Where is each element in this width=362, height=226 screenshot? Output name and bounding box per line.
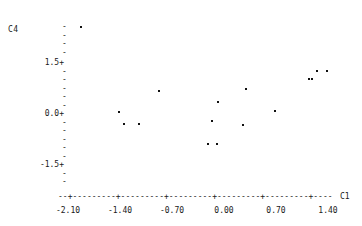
data-point (123, 123, 125, 125)
data-point (242, 124, 244, 126)
data-point (80, 26, 82, 28)
x-axis-tick-label: -2.10 (48, 207, 88, 215)
y-axis-title: C4 (8, 25, 19, 34)
data-point (207, 143, 209, 145)
y-axis-tick-mark: - (62, 144, 72, 152)
data-point (118, 111, 120, 113)
data-point (158, 90, 160, 92)
x-axis-tick-label: -0.70 (152, 207, 192, 215)
scatter-plot: C4 ----1.5+-----0.0+------1.5+-- --+----… (0, 0, 362, 226)
y-axis-tick-mark: - (62, 93, 72, 101)
x-axis-title: C1 (340, 193, 350, 201)
y-axis-tick-mark: - (62, 178, 72, 186)
y-axis-tick-label: 0.0+ (18, 110, 64, 118)
x-axis-tick-label: 0.70 (256, 207, 296, 215)
data-point (217, 101, 219, 103)
x-axis-tick-label: 0.00 (204, 207, 244, 215)
data-point (311, 78, 313, 80)
data-point (316, 70, 318, 72)
x-axis-line: --+---------+---------+---------+-------… (58, 193, 333, 201)
y-axis-tick-mark: - (62, 127, 72, 135)
data-point (216, 143, 218, 145)
y-axis-tick-label: -1.5+ (18, 161, 64, 169)
data-point (326, 70, 328, 72)
data-point (211, 120, 213, 122)
x-axis-tick-label: -1.40 (100, 207, 140, 215)
data-point (308, 78, 310, 80)
data-point (138, 123, 140, 125)
y-axis-tick-label: 1.5+ (18, 59, 64, 67)
data-point (274, 110, 276, 112)
data-point (245, 88, 247, 90)
y-axis-tick-mark: - (62, 76, 72, 84)
y-axis-tick-mark: - (62, 49, 72, 57)
x-axis-tick-label: 1.40 (308, 207, 348, 215)
